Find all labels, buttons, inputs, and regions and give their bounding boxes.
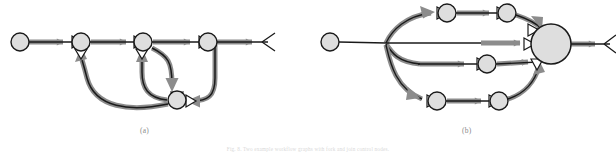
node-b-bottom-2[interactable] [490,92,508,110]
node-a-loop[interactable] [168,91,186,109]
workflow-graphs-svg [0,0,616,140]
arrow-head-fork-to-bottom [406,87,420,100]
node-a-2[interactable] [72,33,90,51]
arrow-head-3-to-loop [166,78,179,92]
node-b-top-2[interactable] [498,4,516,22]
caption-a: (a) [140,126,149,135]
edge-start-to-fork[interactable] [339,42,386,43]
caption-b: (b) [462,126,471,135]
node-b-middle-1[interactable] [478,55,496,73]
node-a-3[interactable] [134,33,152,51]
diagram-b [321,4,616,110]
node-a-4[interactable] [199,33,217,51]
node-a-start[interactable] [11,33,29,51]
figure-container: (a) (b) Fig. 8. Two example workflow gra… [0,0,616,155]
diagram-a [11,33,275,109]
node-b-start[interactable] [321,33,339,51]
edge-bot2-to-join[interactable] [508,66,539,99]
node-b-join-large[interactable] [531,24,571,64]
node-b-top-1[interactable] [438,4,456,22]
node-b-bottom-1[interactable] [428,92,446,110]
merge-marker-a-loop-node [186,95,196,107]
caption-bottom: Fig. 8. Two example workflow graphs with… [0,146,616,155]
